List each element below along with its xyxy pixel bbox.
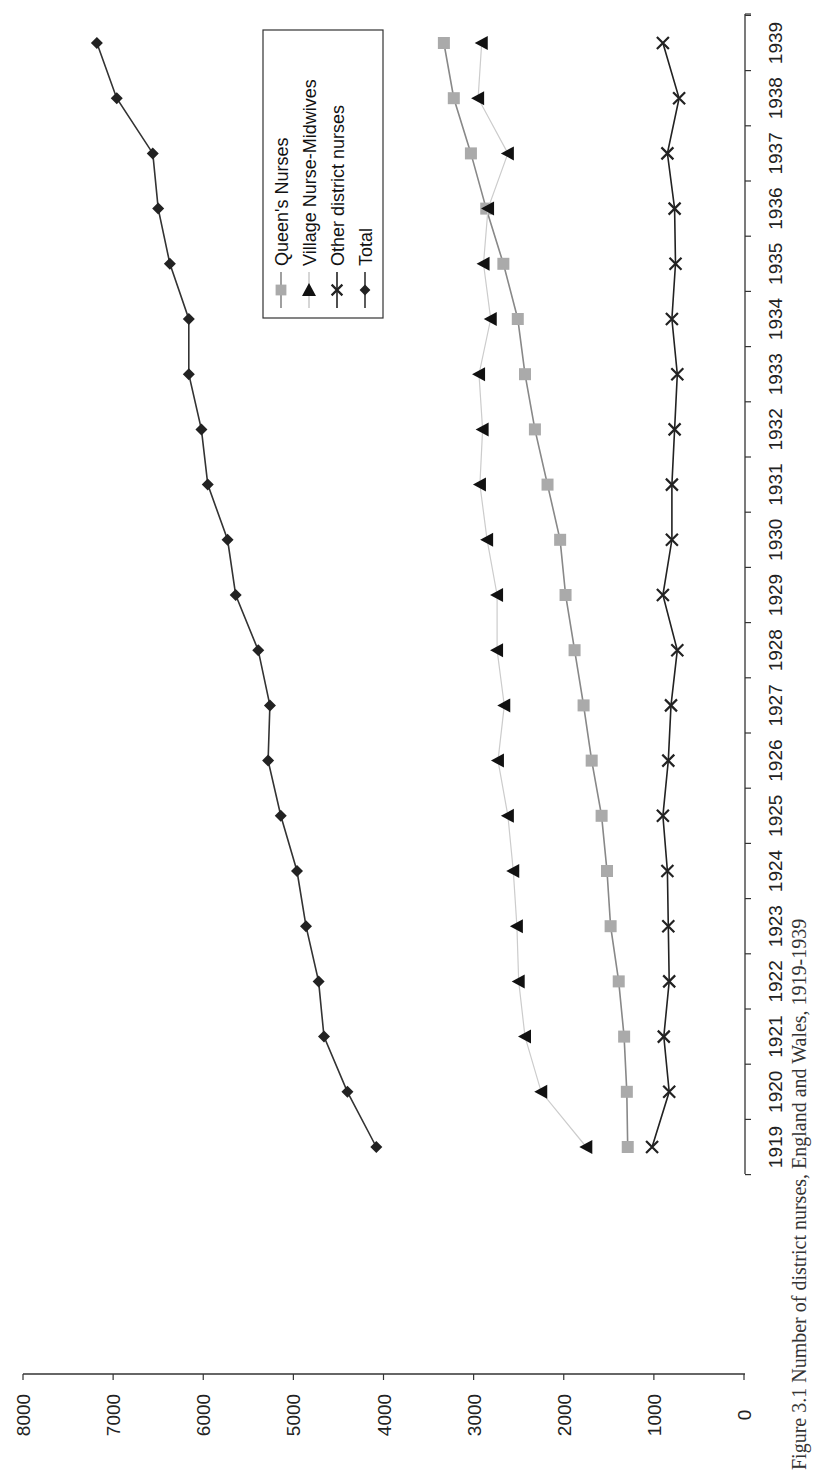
x-marker-icon bbox=[646, 1141, 658, 1153]
diamond-marker-icon bbox=[147, 147, 159, 159]
category-tick-label: 1933 bbox=[765, 353, 786, 395]
square-marker-icon bbox=[605, 920, 617, 932]
diamond-marker-icon bbox=[252, 644, 264, 656]
diamond-marker-icon bbox=[262, 755, 274, 767]
square-marker-icon bbox=[519, 368, 531, 380]
value-tick-label: 0 bbox=[734, 1410, 755, 1421]
category-axis: 1919192019211922192319241925192619271928… bbox=[745, 14, 786, 1175]
rotated-line-chart: 010002000300040005000600070008000 191919… bbox=[0, 0, 815, 1480]
square-marker-icon bbox=[613, 975, 625, 987]
value-tick-label: 4000 bbox=[374, 1394, 395, 1436]
series-line bbox=[444, 43, 628, 1147]
square-marker-icon bbox=[465, 147, 477, 159]
value-tick-label: 2000 bbox=[554, 1394, 575, 1436]
category-tick-label: 1929 bbox=[765, 574, 786, 616]
value-tick-label: 6000 bbox=[193, 1394, 214, 1436]
square-marker-icon bbox=[618, 1031, 630, 1043]
diamond-marker-icon bbox=[91, 37, 103, 49]
category-tick-label: 1937 bbox=[765, 132, 786, 174]
square-marker-icon bbox=[497, 258, 509, 270]
triangle-marker-icon bbox=[477, 257, 490, 271]
triangle-marker-icon bbox=[471, 91, 484, 105]
square-marker-icon bbox=[276, 285, 287, 296]
square-marker-icon bbox=[578, 699, 590, 711]
x-marker-icon bbox=[657, 37, 669, 49]
value-tick-label: 1000 bbox=[644, 1394, 665, 1436]
legend-label: Other district nurses bbox=[328, 105, 348, 266]
diamond-marker-icon bbox=[370, 1141, 382, 1153]
diamond-marker-icon bbox=[291, 865, 303, 877]
diamond-marker-icon bbox=[300, 920, 312, 932]
legend: Queen's NursesVillage Nurse-MidwivesOthe… bbox=[263, 30, 383, 318]
value-axis: 010002000300040005000600070008000 bbox=[13, 1374, 755, 1436]
category-tick-label: 1928 bbox=[765, 629, 786, 671]
category-tick-label: 1920 bbox=[765, 1071, 786, 1113]
square-marker-icon bbox=[622, 1141, 634, 1153]
diamond-marker-icon bbox=[313, 975, 325, 987]
diamond-marker-icon bbox=[275, 810, 287, 822]
category-tick-label: 1934 bbox=[765, 297, 786, 340]
x-marker-icon bbox=[673, 92, 685, 104]
triangle-marker-icon bbox=[491, 754, 504, 768]
diamond-marker-icon bbox=[230, 589, 242, 601]
figure-caption: Figure 3.1 Number of district nurses, En… bbox=[788, 919, 811, 1470]
triangle-marker-icon bbox=[473, 478, 486, 492]
square-marker-icon bbox=[529, 423, 541, 435]
square-marker-icon bbox=[448, 92, 460, 104]
square-marker-icon bbox=[560, 589, 572, 601]
category-tick-label: 1930 bbox=[765, 519, 786, 561]
square-marker-icon bbox=[596, 810, 608, 822]
category-tick-label: 1922 bbox=[765, 960, 786, 1002]
triangle-marker-icon bbox=[534, 1085, 547, 1099]
value-tick-label: 7000 bbox=[103, 1394, 124, 1436]
category-tick-label: 1923 bbox=[765, 905, 786, 947]
diamond-marker-icon bbox=[341, 1086, 353, 1098]
triangle-marker-icon bbox=[472, 367, 485, 381]
diamond-marker-icon bbox=[195, 423, 207, 435]
square-marker-icon bbox=[512, 313, 524, 325]
category-tick-label: 1935 bbox=[765, 243, 786, 285]
diamond-marker-icon bbox=[183, 313, 195, 325]
category-tick-label: 1924 bbox=[765, 849, 786, 892]
triangle-marker-icon bbox=[579, 1140, 592, 1154]
legend-label: Village Nurse-Midwives bbox=[300, 79, 320, 266]
diamond-marker-icon bbox=[111, 92, 123, 104]
square-marker-icon bbox=[542, 479, 554, 491]
legend-label: Queen's Nurses bbox=[272, 138, 292, 267]
series-queen-s-nurses bbox=[438, 37, 634, 1153]
category-tick-label: 1927 bbox=[765, 684, 786, 726]
category-tick-label: 1938 bbox=[765, 77, 786, 119]
legend-label: Total bbox=[356, 228, 376, 266]
value-tick-label: 3000 bbox=[464, 1394, 485, 1436]
category-tick-label: 1926 bbox=[765, 739, 786, 781]
diamond-marker-icon bbox=[264, 699, 276, 711]
value-tick-label: 8000 bbox=[13, 1394, 34, 1436]
series-other-district-nurses bbox=[646, 37, 685, 1153]
square-marker-icon bbox=[438, 37, 450, 49]
square-marker-icon bbox=[621, 1086, 633, 1098]
category-tick-label: 1931 bbox=[765, 463, 786, 505]
category-tick-label: 1932 bbox=[765, 408, 786, 450]
category-tick-label: 1925 bbox=[765, 795, 786, 837]
category-tick-label: 1919 bbox=[765, 1126, 786, 1168]
diamond-marker-icon bbox=[164, 258, 176, 270]
diamond-marker-icon bbox=[318, 1031, 330, 1043]
series-village-nurse-midwives bbox=[471, 36, 592, 1154]
square-marker-icon bbox=[586, 755, 598, 767]
square-marker-icon bbox=[554, 534, 566, 546]
plot-area bbox=[91, 36, 685, 1154]
square-marker-icon bbox=[569, 644, 581, 656]
diamond-marker-icon bbox=[222, 534, 234, 546]
triangle-marker-icon bbox=[501, 146, 514, 160]
category-tick-label: 1939 bbox=[765, 22, 786, 64]
square-marker-icon bbox=[601, 865, 613, 877]
value-tick-label: 5000 bbox=[283, 1394, 304, 1436]
diamond-marker-icon bbox=[202, 479, 214, 491]
diamond-marker-icon bbox=[183, 368, 195, 380]
category-tick-label: 1921 bbox=[765, 1015, 786, 1057]
category-tick-label: 1936 bbox=[765, 187, 786, 229]
diamond-marker-icon bbox=[152, 203, 164, 215]
